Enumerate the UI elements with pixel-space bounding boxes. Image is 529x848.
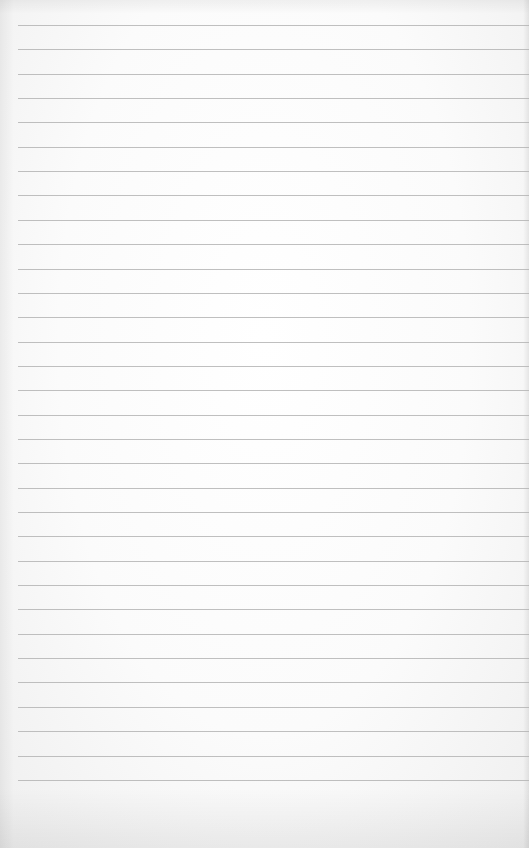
ruled-line: [18, 609, 529, 610]
ruled-line: [18, 220, 529, 221]
ruled-line: [18, 561, 529, 562]
ruled-line: [18, 512, 529, 513]
ruled-line: [18, 49, 529, 50]
ruled-line: [18, 439, 529, 440]
paper-edge-shadow-right: [523, 0, 529, 848]
ruled-line: [18, 25, 529, 26]
ruled-line: [18, 317, 529, 318]
ruled-line: [18, 658, 529, 659]
lined-paper-sheet: [0, 0, 529, 848]
ruled-line: [18, 269, 529, 270]
ruled-line: [18, 585, 529, 586]
ruled-line: [18, 463, 529, 464]
ruled-line: [18, 682, 529, 683]
ruled-line: [18, 74, 529, 75]
paper-edge-shadow-bottom: [0, 788, 529, 848]
ruled-line: [18, 634, 529, 635]
ruled-line: [18, 415, 529, 416]
ruled-line: [18, 293, 529, 294]
ruled-line: [18, 244, 529, 245]
ruled-line: [18, 195, 529, 196]
ruled-line: [18, 707, 529, 708]
ruled-line: [18, 171, 529, 172]
paper-edge-shadow-left: [0, 0, 14, 848]
ruled-line: [18, 536, 529, 537]
ruled-line: [18, 731, 529, 732]
ruled-line: [18, 756, 529, 757]
ruled-line: [18, 488, 529, 489]
ruled-line: [18, 147, 529, 148]
paper-edge-shadow-top: [0, 0, 529, 14]
ruled-line: [18, 122, 529, 123]
ruled-line: [18, 98, 529, 99]
ruled-line: [18, 366, 529, 367]
ruled-line: [18, 780, 529, 781]
ruled-line: [18, 390, 529, 391]
ruled-line: [18, 342, 529, 343]
